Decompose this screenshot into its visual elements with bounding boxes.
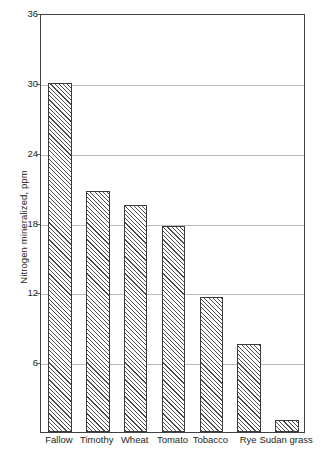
y-tick-mark <box>36 363 40 364</box>
y-tick-label: 18 <box>16 219 38 229</box>
y-tick-mark <box>36 84 40 85</box>
bar <box>162 226 185 432</box>
y-tick-label: 6 <box>16 358 38 368</box>
y-axis-tick-labels: 61218243036 <box>16 0 38 454</box>
bars-group <box>41 15 304 432</box>
y-tick-mark <box>36 224 40 225</box>
bar <box>86 191 109 432</box>
bar <box>275 420 298 432</box>
y-tick-label: 12 <box>16 289 38 299</box>
bar <box>237 344 260 432</box>
x-tick-label: Wheat <box>121 435 148 445</box>
y-tick-label: 36 <box>16 9 38 19</box>
y-tick-mark <box>36 14 40 15</box>
y-tick-mark <box>36 293 40 294</box>
x-tick-label: Rye <box>240 435 257 445</box>
bar-chart-figure: Nitrogen mineralized, ppm 61218243036 Fa… <box>0 0 321 454</box>
bar <box>48 83 71 432</box>
bar <box>200 297 223 432</box>
y-tick-label: 24 <box>16 149 38 159</box>
x-tick-label: Tobacco <box>193 435 228 445</box>
x-axis-tick-labels: FallowTimothyWheatTomatoTobaccoRyeSudan … <box>40 435 305 451</box>
x-tick-label: Tomato <box>157 435 188 445</box>
x-tick-label: Timothy <box>80 435 113 445</box>
y-tick-label: 30 <box>16 79 38 89</box>
bar <box>124 205 147 432</box>
x-tick-label: Fallow <box>45 435 72 445</box>
x-tick-label: Sudan grass <box>259 435 312 445</box>
plot-area <box>40 14 305 433</box>
y-tick-mark <box>36 154 40 155</box>
